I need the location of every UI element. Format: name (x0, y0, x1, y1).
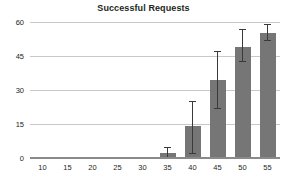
error-bar-cap (264, 24, 271, 25)
chart-container: Successful Requests 015304560 1015202530… (0, 0, 287, 187)
error-bar-cap (264, 40, 271, 41)
bar (260, 33, 276, 158)
chart-title: Successful Requests (0, 3, 287, 13)
error-bar-cap (239, 61, 246, 62)
y-axis-tick-label: 0 (0, 154, 24, 163)
y-axis-tick-label: 60 (0, 18, 24, 27)
y-axis-tick-label: 30 (0, 86, 24, 95)
y-axis-tick-label: 45 (0, 52, 24, 61)
gridline (30, 22, 280, 23)
error-bar-cap (164, 147, 171, 148)
bar (235, 47, 251, 158)
x-axis-tick-label: 55 (253, 163, 283, 172)
error-bar-line (267, 24, 268, 40)
error-bar-cap (189, 101, 196, 102)
plot-area (30, 22, 280, 158)
error-bar-line (217, 51, 218, 108)
error-bar-cap (214, 51, 221, 52)
error-bar-cap (189, 153, 196, 154)
x-axis-line (30, 157, 280, 159)
error-bar-cap (239, 29, 246, 30)
y-axis-tick-label: 15 (0, 120, 24, 129)
error-bar-line (242, 29, 243, 61)
error-bar-cap (214, 108, 221, 109)
error-bar-line (192, 101, 193, 153)
